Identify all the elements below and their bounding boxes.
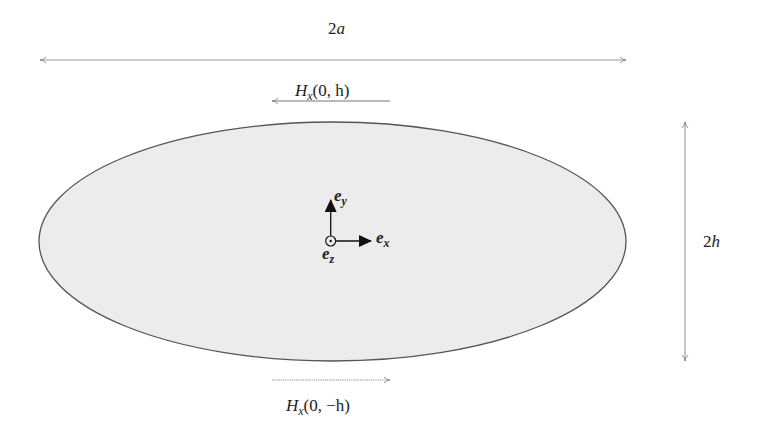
bottom-field-label-group: Hx(0, −h) (272, 380, 390, 418)
width-dimension: 2a (40, 19, 626, 60)
top-field-label: Hx(0, h) (294, 81, 349, 103)
height-dimension: 2h (685, 122, 720, 361)
top-field-label-group: Hx(0, h) (272, 81, 390, 103)
diagram-canvas: 2a Hx(0, h) ey ex ez 2h (0, 0, 763, 433)
width-dimension-label: 2a (328, 19, 345, 38)
height-dimension-label: 2h (703, 232, 720, 251)
ez-dot-icon (330, 240, 332, 242)
bottom-field-label: Hx(0, −h) (285, 396, 350, 418)
ellipse-body (39, 122, 626, 361)
